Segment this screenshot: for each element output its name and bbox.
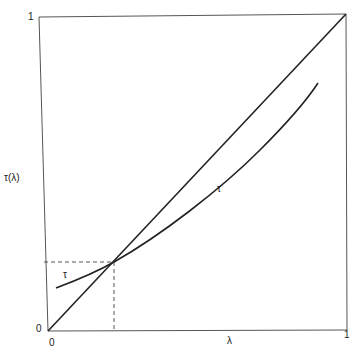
tau-curve xyxy=(56,83,318,288)
curve-label-lower: τ xyxy=(63,270,67,280)
y-tick-origin: 0 xyxy=(36,324,42,334)
identity-line xyxy=(48,14,346,331)
y-tick-top: 1 xyxy=(28,12,34,22)
x-tick-right: 1 xyxy=(344,330,350,340)
curve-label-upper: τ xyxy=(217,184,221,194)
chart-canvas xyxy=(0,0,363,354)
x-axis-label: λ xyxy=(227,336,232,346)
x-tick-origin: 0 xyxy=(49,338,55,348)
y-axis-label: τ(λ) xyxy=(4,173,20,183)
